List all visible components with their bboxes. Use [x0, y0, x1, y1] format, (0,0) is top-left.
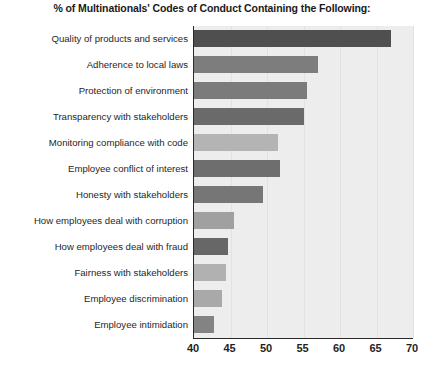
- y-axis-label: Adherence to local laws: [0, 56, 193, 73]
- y-axis-label: Monitoring compliance with code: [0, 134, 193, 151]
- x-axis-tick: 70: [397, 342, 424, 354]
- bar-row: [194, 26, 413, 52]
- bar-row: [194, 104, 413, 130]
- bar: [194, 134, 278, 151]
- bar: [194, 82, 307, 99]
- bar: [194, 290, 222, 307]
- y-axis-label: Employee intimidation: [0, 316, 193, 333]
- bar-row: [194, 156, 413, 182]
- plot-area: [193, 26, 413, 339]
- bar: [194, 160, 280, 177]
- bar: [194, 264, 226, 281]
- bar: [194, 212, 234, 229]
- x-axis-tick: 50: [251, 342, 281, 354]
- y-axis-label: How employees deal with fraud: [0, 238, 193, 255]
- y-axis-label: Honesty with stakeholders: [0, 186, 193, 203]
- bar-row: [194, 208, 413, 234]
- bar-row: [194, 130, 413, 156]
- bar-row: [194, 260, 413, 286]
- y-axis-label: Quality of products and services: [0, 30, 193, 47]
- x-axis-tick: 65: [361, 342, 391, 354]
- bar-chart: % of Multinationals' Codes of Conduct Co…: [0, 0, 424, 370]
- y-axis-label: How employees deal with corruption: [0, 212, 193, 229]
- x-axis-tick: 60: [324, 342, 354, 354]
- bar: [194, 186, 263, 203]
- gridline: [413, 26, 414, 338]
- bar: [194, 30, 391, 47]
- bar-row: [194, 312, 413, 338]
- bar: [194, 238, 228, 255]
- y-axis-label: Employee conflict of interest: [0, 160, 193, 177]
- x-axis-tick: 40: [178, 342, 208, 354]
- bar: [194, 108, 304, 125]
- y-axis-label: Protection of environment: [0, 82, 193, 99]
- bar: [194, 56, 318, 73]
- y-axis-label: Transparency with stakeholders: [0, 108, 193, 125]
- chart-title: % of Multinationals' Codes of Conduct Co…: [0, 2, 424, 14]
- bar-row: [194, 182, 413, 208]
- y-axis-label: Employee discrimination: [0, 290, 193, 307]
- y-axis-label: Fairness with stakeholders: [0, 264, 193, 281]
- bar-row: [194, 52, 413, 78]
- bar-row: [194, 286, 413, 312]
- x-axis-tick: 55: [288, 342, 318, 354]
- bar-row: [194, 234, 413, 260]
- x-axis-tick: 45: [215, 342, 245, 354]
- bar-row: [194, 78, 413, 104]
- bar: [194, 316, 214, 333]
